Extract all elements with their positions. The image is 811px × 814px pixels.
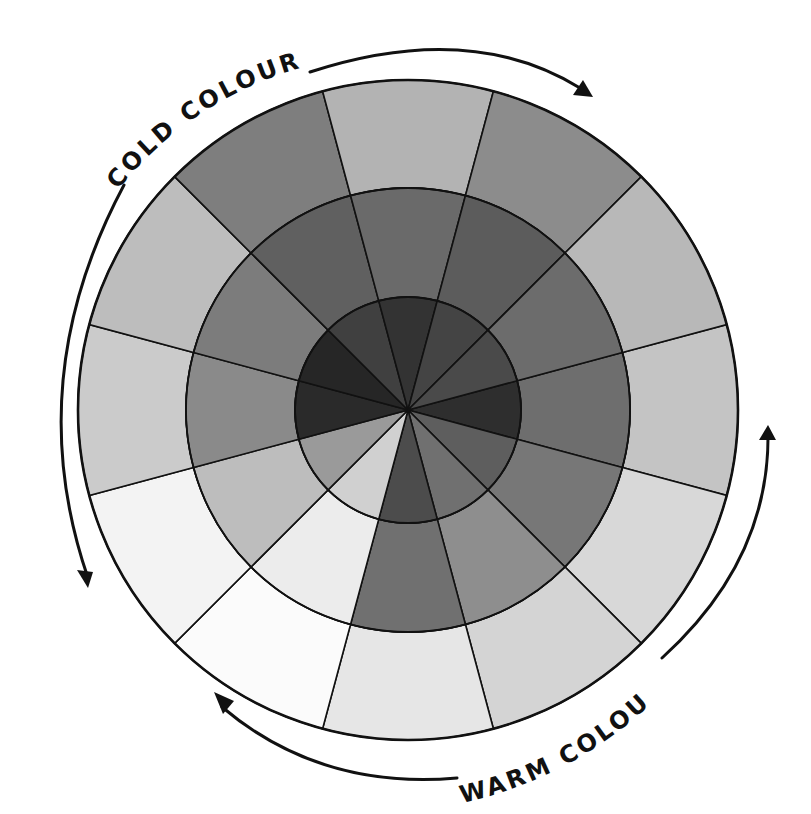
wheel-outer-cell — [323, 624, 494, 740]
wheel-outer-cell — [78, 325, 194, 496]
wheel-outer-cell — [323, 80, 494, 196]
arrow-up-icon — [759, 425, 776, 440]
colour-wheel-diagram: COLD COLOURS WARM COLOURS — [0, 0, 811, 814]
arrow-down-icon — [77, 570, 93, 588]
colour-wheel — [78, 80, 738, 740]
wheel-outer-cell — [622, 325, 738, 496]
arrow-right-icon — [573, 80, 593, 97]
arrow-left-icon — [214, 692, 234, 714]
